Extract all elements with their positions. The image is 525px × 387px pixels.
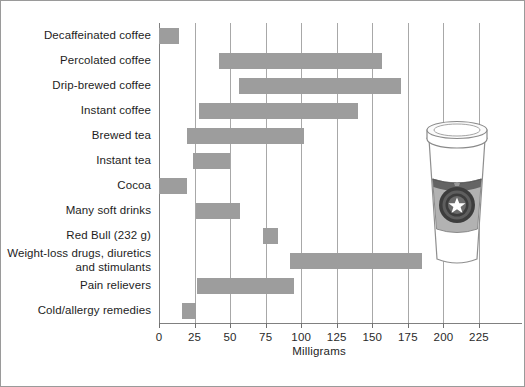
x-tick-label: 150 <box>362 331 382 343</box>
bar <box>182 303 196 319</box>
bar <box>197 278 294 294</box>
category-label: Cocoa <box>1 179 151 193</box>
x-tick-label: 0 <box>156 331 163 343</box>
bar <box>196 203 240 219</box>
category-axis: Decaffeinated coffeePercolated coffeeDri… <box>1 23 157 323</box>
bar <box>193 153 230 169</box>
category-label: Brewed tea <box>1 129 151 143</box>
tickmark-175 <box>408 323 409 328</box>
tickmark-100 <box>301 323 302 328</box>
bar <box>219 53 383 69</box>
x-tick-label: 75 <box>259 331 272 343</box>
category-label: Percolated coffee <box>1 54 151 68</box>
tickmark-150 <box>372 323 373 328</box>
bar <box>159 178 187 194</box>
bar <box>159 28 179 44</box>
x-tick-label: 225 <box>469 331 489 343</box>
x-axis-title: Milligrams <box>159 345 479 357</box>
category-label: Instant coffee <box>1 104 151 118</box>
y-axis-line <box>159 23 160 323</box>
bar <box>199 103 358 119</box>
gridline-25 <box>195 23 196 323</box>
x-tick-label: 25 <box>188 331 201 343</box>
category-label: Drip-brewed coffee <box>1 79 151 93</box>
bar <box>187 128 304 144</box>
x-tick-label: 175 <box>398 331 418 343</box>
x-axis-line <box>159 323 522 324</box>
category-label: Red Bull (232 g) <box>1 229 151 243</box>
category-label: Instant tea <box>1 154 151 168</box>
tickmark-75 <box>266 323 267 328</box>
tickmark-200 <box>443 323 444 328</box>
category-label: Pain relievers <box>1 279 151 293</box>
tickmark-50 <box>230 323 231 328</box>
x-tick-label: 100 <box>291 331 311 343</box>
coffee-cup-illustration <box>409 117 505 273</box>
tickmark-125 <box>337 323 338 328</box>
category-label: Many soft drinks <box>1 204 151 218</box>
tickmark-25 <box>195 323 196 328</box>
category-label: Cold/allergy remedies <box>1 304 151 318</box>
bar <box>290 253 422 269</box>
bar <box>239 78 401 94</box>
caffeine-content-chart: Decaffeinated coffeePercolated coffeeDri… <box>0 0 525 387</box>
bar <box>263 228 279 244</box>
tickmark-0 <box>159 323 160 328</box>
x-tick-label: 50 <box>224 331 237 343</box>
tickmark-225 <box>479 323 480 328</box>
category-label: Weight-loss drugs, diuretics and stimula… <box>1 247 151 274</box>
x-tick-label: 200 <box>434 331 454 343</box>
x-tick-label: 125 <box>327 331 347 343</box>
category-label: Decaffeinated coffee <box>1 29 151 43</box>
